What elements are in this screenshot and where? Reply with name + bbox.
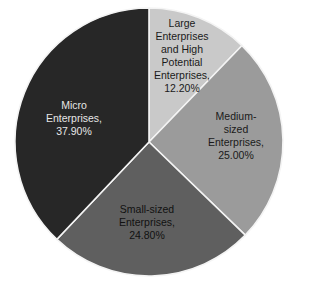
slice-label-small-enterprises: Small-sized Enterprises, 24.80% [119, 203, 175, 242]
slice-label-large-enterprises: Large Enterprises and High Potential Ent… [154, 17, 210, 95]
slice-label-micro-enterprises: Micro Enterprises, 37.90% [46, 99, 102, 138]
slice-label-medium-enterprises: Medium-sized Enterprises, 25.00% [207, 110, 266, 162]
